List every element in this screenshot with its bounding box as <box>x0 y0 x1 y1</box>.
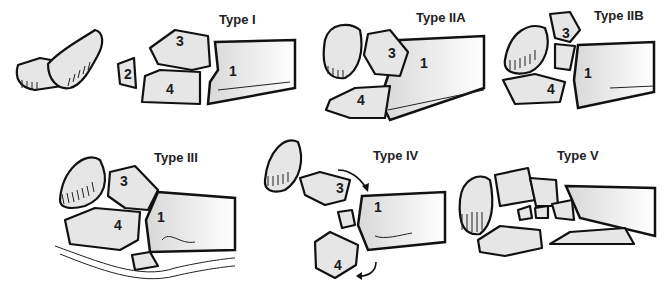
bone-label-4: 4 <box>114 217 122 233</box>
bone-label-2: 2 <box>124 66 132 82</box>
panel-title: Type IV <box>373 148 419 163</box>
panel-title: Type III <box>154 150 198 165</box>
bone-label-3: 3 <box>562 25 570 41</box>
panel-title: Type IIA <box>416 10 466 25</box>
panel-title: Type I <box>219 12 256 27</box>
panel-type-iia: Type IIA 3 1 4 <box>324 10 484 120</box>
bone-label-1: 1 <box>157 209 165 225</box>
bone-label-4: 4 <box>334 257 342 273</box>
bone-label-4: 4 <box>547 81 555 97</box>
panel-type-iii: Type III 3 1 4 <box>55 150 235 279</box>
panel-type-iib: Type IIB 3 1 4 <box>503 8 654 108</box>
bone-label-3: 3 <box>176 33 184 49</box>
bone-label-3: 3 <box>388 45 396 61</box>
bone-label-3: 3 <box>336 180 344 196</box>
panel-type-v: Type V <box>460 148 655 256</box>
bone-label-3: 3 <box>120 173 128 189</box>
panel-title: Type IIB <box>594 8 644 23</box>
fracture-classification-figure: Type I 3 2 4 1 Type IIA 3 1 4 Type IIB 3… <box>0 0 670 290</box>
bone-label-1: 1 <box>584 65 592 81</box>
bone-label-4: 4 <box>166 81 174 97</box>
panel-type-iv: Type IV 3 1 4 <box>265 141 445 280</box>
carpal-bones-reference <box>17 30 102 90</box>
panel-type-i: Type I 3 2 4 1 <box>118 12 295 104</box>
bone-label-1: 1 <box>420 55 428 71</box>
bone-label-1: 1 <box>229 63 237 79</box>
panel-title: Type V <box>557 148 599 163</box>
bone-label-4: 4 <box>357 92 365 108</box>
bone-label-1: 1 <box>374 199 382 215</box>
